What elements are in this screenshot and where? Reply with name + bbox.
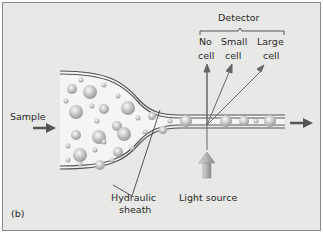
large-cell-label-2: cell	[263, 50, 279, 61]
detector-label: Detector	[218, 12, 259, 23]
hydraulic-sheath-label-2: sheath	[119, 204, 151, 215]
hydraulic-sheath-label-1: Hydraulic	[111, 192, 156, 203]
output-arrow-icon	[290, 118, 313, 128]
large-cell-label-1: Large	[257, 36, 284, 47]
no-cell-label-2: cell	[198, 50, 214, 61]
panel-label: (b)	[11, 208, 24, 219]
small-cell-label-2: cell	[225, 50, 241, 61]
sample-arrow-icon	[33, 123, 56, 133]
small-cell-label-1: Small	[221, 36, 247, 47]
light-source-arrow-icon	[199, 152, 215, 178]
no-cell-label-1: No	[199, 36, 212, 47]
sample-label: Sample	[10, 111, 46, 122]
detector-bracket	[200, 28, 284, 35]
light-source-label: Light source	[179, 192, 237, 203]
detector-rays	[204, 64, 264, 125]
